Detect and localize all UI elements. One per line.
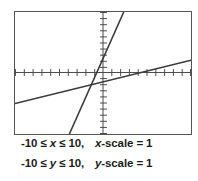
window-range-caption: -10 ≤ x ≤ 10, x-scale = 1 -10 ≤ y ≤ 10, …	[0, 137, 198, 177]
x-scale-text: x-scale = 1	[95, 137, 152, 149]
y-scale-text: y-scale = 1	[95, 157, 152, 169]
plot-canvas	[15, 12, 191, 134]
y-range-text: -10 ≤ y ≤ 10,	[21, 157, 95, 169]
graph-viewport	[14, 11, 192, 135]
x-range-text: -10 ≤ x ≤ 10,	[21, 137, 95, 149]
caption-line-x: -10 ≤ x ≤ 10, x-scale = 1	[0, 137, 198, 157]
caption-line-y: -10 ≤ y ≤ 10, y-scale = 1	[0, 157, 198, 177]
